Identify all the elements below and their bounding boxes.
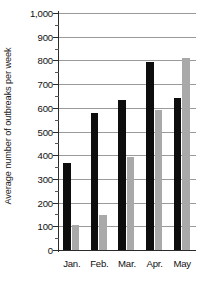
- y-tick-label: 700: [38, 79, 53, 90]
- y-tick-label: 100: [38, 221, 53, 232]
- x-tick-label: Apr.: [146, 258, 162, 269]
- y-axis-major-tick: [53, 37, 59, 38]
- y-axis-minor-tick: [55, 25, 59, 26]
- bar-group: [168, 13, 196, 250]
- y-tick-label: 600: [38, 102, 53, 113]
- y-axis-minor-tick: [55, 214, 59, 215]
- y-tick-label: 800: [38, 55, 53, 66]
- y-axis-major-tick: [53, 226, 59, 227]
- y-axis-major-tick: [53, 108, 59, 109]
- y-axis-minor-tick: [55, 167, 59, 168]
- x-tick-label: May: [173, 258, 191, 269]
- bar: [91, 113, 99, 250]
- y-axis-major-tick: [53, 13, 59, 14]
- y-axis-minor-tick: [55, 238, 59, 239]
- bar: [182, 58, 190, 250]
- y-axis-major-tick: [53, 203, 59, 204]
- y-tick-label: 200: [38, 197, 53, 208]
- bar: [63, 163, 71, 250]
- bar: [174, 98, 182, 250]
- y-axis-major-tick: [53, 84, 59, 85]
- y-tick-label: 500: [38, 126, 53, 137]
- y-axis-minor-tick: [55, 72, 59, 73]
- y-axis-title: Average number of outbreaks per week: [0, 0, 16, 252]
- x-tick-label: Mar.: [118, 258, 136, 269]
- x-tick-label: Jan.: [63, 258, 80, 269]
- y-axis-tick-labels: 01002003004005006007008009001,000: [16, 0, 56, 256]
- y-axis-title-text: Average number of outbreaks per week: [3, 47, 13, 204]
- y-axis-major-tick: [53, 155, 59, 156]
- bar: [118, 100, 126, 250]
- bar-group: [86, 13, 114, 250]
- y-axis-minor-tick: [55, 191, 59, 192]
- bar-group: [58, 13, 86, 250]
- y-axis-major-tick: [53, 132, 59, 133]
- bar-group: [113, 13, 141, 250]
- y-tick-label: 300: [38, 173, 53, 184]
- axis-baseline: [58, 250, 196, 251]
- y-axis-major-tick: [53, 250, 59, 251]
- x-axis-tick-labels: Jan.Feb.Mar.Apr.May: [58, 254, 200, 276]
- bar-group: [141, 13, 169, 250]
- bar: [155, 110, 163, 250]
- plot-area: [58, 13, 196, 250]
- y-tick-label: 1,000: [30, 8, 53, 19]
- y-tick-label: 400: [38, 150, 53, 161]
- y-axis-minor-tick: [55, 120, 59, 121]
- y-tick-label: 900: [38, 31, 53, 42]
- bar: [146, 62, 154, 250]
- bar: [99, 215, 107, 250]
- y-axis-major-tick: [53, 60, 59, 61]
- x-tick-label: Feb.: [90, 258, 108, 269]
- y-axis-minor-tick: [55, 96, 59, 97]
- y-axis-minor-tick: [55, 143, 59, 144]
- bar: [72, 225, 80, 250]
- y-axis-minor-tick: [55, 49, 59, 50]
- bar: [127, 157, 135, 250]
- bars-layer: [58, 13, 196, 250]
- y-axis-major-tick: [53, 179, 59, 180]
- bar-chart: Average number of outbreaks per week 010…: [0, 0, 200, 284]
